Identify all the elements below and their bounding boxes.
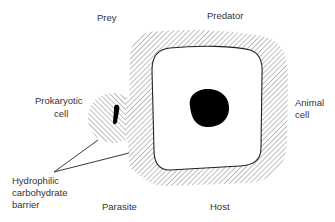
label-prokaryotic: Prokaryotic [35,95,83,106]
label-carbohydrate: carbohydrate [12,187,67,198]
label-host: Host [210,201,230,212]
label-animal: Animal [295,97,324,108]
label-prokaryotic-cell: cell [54,108,68,119]
label-animal-cell: cell [295,109,309,120]
label-parasite: Parasite [102,201,137,212]
label-predator: Predator [207,10,243,21]
cell-interaction-diagram: Prey Predator Prokaryotic cell Animal ce… [0,0,335,222]
label-prey: Prey [97,12,117,23]
barrier-pointer-lines [54,140,129,172]
label-barrier: barrier [12,199,39,210]
label-hydrophilic: Hydrophilic [12,175,59,186]
nucleus [190,89,229,127]
